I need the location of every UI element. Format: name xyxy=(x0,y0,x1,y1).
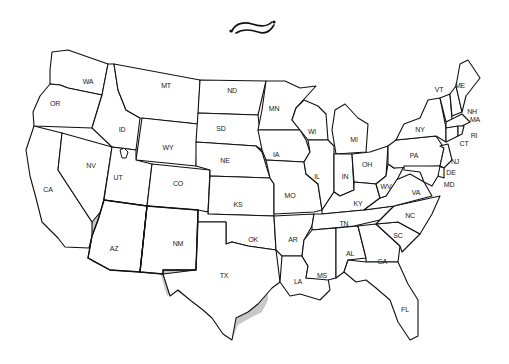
label-ma: MA xyxy=(470,116,481,123)
label-nh: NH xyxy=(467,108,477,115)
state-ia xyxy=(258,130,310,162)
label-ga: GA xyxy=(377,258,387,265)
label-sc: SC xyxy=(393,232,402,239)
label-az: AZ xyxy=(110,245,119,252)
label-in: IN xyxy=(342,173,349,180)
state-nm xyxy=(140,206,198,274)
label-mi: MI xyxy=(350,136,358,143)
label-ok: OK xyxy=(248,236,258,243)
label-pa: PA xyxy=(410,152,419,159)
label-ks: KS xyxy=(234,201,243,208)
label-wy: WY xyxy=(163,144,174,151)
label-ia: IA xyxy=(273,151,280,158)
state-fl xyxy=(344,260,418,340)
label-ca: CA xyxy=(43,186,53,193)
state-ny xyxy=(396,98,446,142)
label-sd: SD xyxy=(216,125,225,132)
state-co xyxy=(147,164,210,212)
state-wy xyxy=(136,118,198,166)
label-ky: KY xyxy=(354,200,363,207)
label-ct: CT xyxy=(460,140,470,147)
label-wi: WI xyxy=(308,128,316,135)
label-tn: TN xyxy=(340,220,349,227)
label-tx: TX xyxy=(220,272,229,279)
label-md: MD xyxy=(444,181,455,188)
flourish-ornament-icon xyxy=(229,20,275,33)
label-nj: NJ xyxy=(451,158,459,165)
label-fl: FL xyxy=(401,306,409,313)
label-ar: AR xyxy=(288,236,297,243)
label-de: DE xyxy=(446,169,456,176)
label-nv: NV xyxy=(86,162,96,169)
label-la: LA xyxy=(294,278,303,285)
label-il: IL xyxy=(314,173,320,180)
state-ri xyxy=(458,126,464,136)
label-mt: MT xyxy=(161,82,172,89)
label-nd: ND xyxy=(227,87,237,94)
state-ct xyxy=(446,126,458,142)
label-ri: RI xyxy=(471,132,478,139)
us-region-map: WA OR CA ID NV MT WY UT CO AZ NM ND SD N… xyxy=(0,0,509,364)
label-va: VA xyxy=(412,189,421,196)
label-mn: MN xyxy=(269,105,280,112)
label-mo: MO xyxy=(285,192,297,199)
label-al: AL xyxy=(346,250,354,257)
label-wa: WA xyxy=(83,78,94,85)
label-ms: MS xyxy=(317,272,328,279)
label-ny: NY xyxy=(415,126,425,133)
label-or: OR xyxy=(50,100,60,107)
state-mi xyxy=(332,104,368,154)
label-nm: NM xyxy=(173,240,184,247)
state-ks xyxy=(208,176,274,216)
label-vt: VT xyxy=(435,86,444,93)
label-ne: NE xyxy=(220,157,230,164)
label-nc: NC xyxy=(405,212,415,219)
label-ut: UT xyxy=(114,174,124,181)
label-oh: OH xyxy=(362,161,372,168)
state-nd xyxy=(198,80,266,115)
label-co: CO xyxy=(173,180,184,187)
label-wv: WV xyxy=(381,183,392,190)
label-id: ID xyxy=(119,126,126,133)
label-me: ME xyxy=(455,82,466,89)
